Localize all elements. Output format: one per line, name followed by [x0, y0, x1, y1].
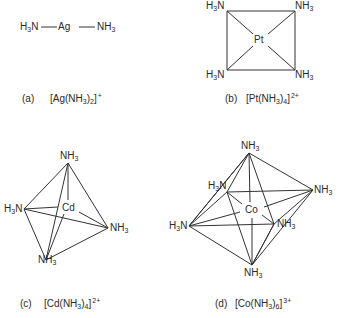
ag-ligand-right: NH3: [97, 21, 115, 34]
cd-ligand-left: H3N: [4, 203, 22, 216]
co-ligand-top: NH3: [241, 140, 259, 153]
pt-ligand-top-right: NH3: [295, 0, 313, 13]
pt-center-atom: Pt: [254, 34, 263, 46]
co-center-atom: Co: [245, 204, 258, 216]
co-ligand-back-left: H3N: [208, 180, 226, 193]
co-ligand-bottom: NH3: [244, 267, 262, 280]
cd-ligand-right: NH3: [110, 222, 128, 235]
caption-c-formula: [Cd(NH3)4]2+: [44, 298, 100, 311]
ag-center-atom: Ag: [58, 21, 70, 33]
caption-b-label: (b): [225, 93, 237, 105]
cd-ligand-bottom: NH3: [38, 254, 56, 267]
caption-b-formula: [Pt(NH3)4]2+: [246, 93, 299, 106]
co-ligand-left: H3N: [169, 220, 187, 233]
co-ligand-front-right: NH3: [277, 218, 295, 231]
caption-d-label: (d): [215, 298, 227, 310]
caption-d-formula: [Co(NH3)6]3+: [235, 298, 291, 311]
pt-ligand-bottom-left: H3N: [206, 69, 224, 82]
pt-ligand-top-left: H3N: [206, 0, 224, 13]
caption-a-formula: [Ag(NH3)2]+: [50, 93, 102, 106]
cd-ligand-top: NH3: [60, 150, 78, 163]
cd-center-atom: Cd: [62, 202, 75, 214]
ag-ligand-left: H3N: [20, 21, 38, 34]
caption-c-label: (c): [20, 298, 32, 310]
co-ligand-right: NH3: [314, 184, 332, 197]
pt-ligand-bottom-right: NH3: [295, 69, 313, 82]
caption-a-label: (a): [22, 93, 34, 105]
coordination-complexes-figure: [0, 0, 340, 318]
